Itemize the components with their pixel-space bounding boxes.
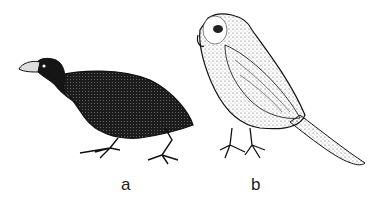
bird-a — [19, 58, 193, 164]
panel-label-a: a — [121, 175, 130, 195]
bird-b — [197, 14, 365, 165]
panel-label-b: b — [251, 175, 260, 195]
bird-illustration-figure — [0, 0, 382, 205]
